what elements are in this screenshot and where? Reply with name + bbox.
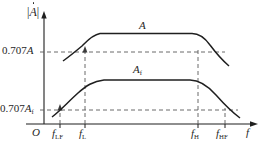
x-tick-label-fH: fH [191,128,199,141]
y-tick-label-0707Af: 0.707Af [0,103,34,116]
bode-magnitude-figure [0,0,263,144]
y-tick-0707Af-subscript: f [31,108,33,115]
x-tick-fLF-subscript: LF [55,133,63,140]
curve-Af-subscript: f [140,69,142,76]
y-tick-0707A-prefix: 0.707 [2,44,27,56]
y-axis-label: |A| [27,6,39,18]
x-tick-fHF-subscript: HF [219,133,228,140]
x-tick-label-fLF: fLF [52,128,63,141]
guide-fL-arrowhead [83,46,88,53]
y-tick-label-0707A: 0.707A [2,45,33,56]
curve-Af [52,80,240,118]
curve-Af-symbol: A [133,63,140,75]
x-tick-label-fHF: fHF [216,128,228,141]
y-tick-0707A-symbol: A [27,44,34,56]
curve-A [63,34,229,67]
x-tick-fH-subscript: H [194,133,199,140]
abs-bar-right: | [37,5,39,19]
guide-arrowheads [58,46,88,111]
a-phasor-symbol: A [29,6,36,18]
x-axis-label: f [246,127,249,138]
x-tick-label-fL: fL [79,128,86,141]
y-tick-0707Af-prefix: 0.707 [0,102,25,114]
curve-label-Af: Af [133,64,142,77]
origin-label: O [32,127,40,138]
x-axis-arrowhead [250,121,258,127]
x-tick-fL-subscript: L [82,133,86,140]
curve-A-symbol: A [139,19,146,31]
y-axis-arrowhead [41,11,46,19]
curve-label-A: A [139,20,146,31]
